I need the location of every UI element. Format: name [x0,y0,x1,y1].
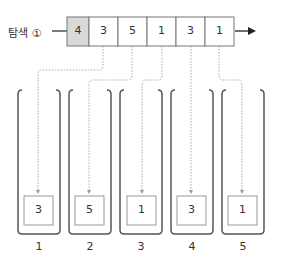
bucket-value: 1 [228,203,257,216]
array-cell-value: 1 [205,24,234,37]
array-cell-value: 3 [176,24,205,37]
search-label: 탐색 ① [8,24,41,40]
bucket-index-label: 2 [69,240,111,253]
bucket-value: 3 [24,203,53,216]
route-to-bucket-1 [38,46,103,190]
arrow-head-icon [248,27,256,35]
bucket-value: 1 [127,203,156,216]
diagram-canvas [0,0,281,266]
bucket-index-label: 1 [18,240,60,253]
bucket-index-label: 3 [120,240,162,253]
bucket-value: 5 [75,203,104,216]
bucket-index-label: 5 [222,240,264,253]
array-cell-value: 3 [89,24,118,37]
bucket-index-label: 4 [171,240,213,253]
array-cell-value: 5 [118,24,147,37]
array-cell-value: 1 [147,24,176,37]
array-cell-value: 4 [67,24,89,37]
bucket-value: 3 [177,203,206,216]
route-to-bucket-3 [142,46,162,190]
